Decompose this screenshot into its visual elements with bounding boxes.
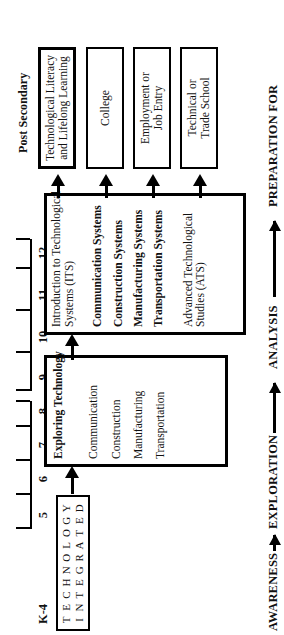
- phase-label-awareness: AWARENESS: [266, 553, 281, 631]
- bracket-tick-6: [16, 494, 30, 496]
- letter-row-technology: T E C H N O L O G Y: [60, 500, 73, 626]
- letter-cell: O: [60, 527, 73, 539]
- phase-label-preparation: PREPARATION FOR: [266, 85, 281, 207]
- course-transportation: Transportation: [154, 367, 167, 459]
- letter-cell: G: [60, 514, 73, 526]
- course-exploring-technology: Exploring Technology: [52, 367, 65, 459]
- letter-cell: O: [60, 552, 73, 564]
- ps-trade-school-line2: Trade School: [199, 77, 212, 138]
- bracket-tick-9: [16, 390, 30, 392]
- letter-cell: D: [73, 502, 86, 514]
- post-secondary-box-employment: Employment or Job Entry: [133, 47, 171, 169]
- letter-cell: Y: [60, 502, 73, 514]
- course-manufacturing-systems: Manufacturing Systems: [132, 205, 145, 327]
- phase-arrow-2: [273, 383, 276, 433]
- post-secondary-heading: Post Secondary: [16, 73, 31, 153]
- arrow-head-to-tech-literacy: [51, 174, 65, 186]
- middle-school-course-list: Exploring Technology Communication Const…: [52, 367, 168, 459]
- arrow-shaft-to-employment: [152, 184, 155, 198]
- high-school-course-list: Introduction to Technological Systems (I…: [50, 205, 207, 327]
- bracket-tick-10: [16, 352, 30, 354]
- bracket-tick-8-end: [16, 401, 30, 403]
- course-ats-line2: Studies (ATS): [194, 205, 207, 327]
- bracket-tick-8: [16, 426, 30, 428]
- arrow-shaft-to-trade-school: [199, 184, 202, 198]
- rotated-diagram-wrapper: AWARENESS EXPLORATION ANALYSIS PREPARATI…: [0, 0, 284, 635]
- arrow-shaft-to-college: [105, 184, 108, 198]
- letter-cell: N: [60, 564, 73, 576]
- phase-arrow-1: [273, 535, 276, 551]
- letter-row-integrated: I N T E G R A T E D: [73, 500, 86, 626]
- phase-label-exploration: EXPLORATION: [266, 435, 281, 529]
- bracket-rail-middle: [30, 401, 32, 529]
- letter-cell: T: [60, 614, 73, 626]
- bracket-tick-12: [16, 268, 30, 270]
- arrow-head-k4-to-middle: [65, 466, 79, 478]
- letter-cell: T: [73, 589, 86, 601]
- course-construction-systems: Construction Systems: [112, 205, 125, 327]
- bracket-tick-7: [16, 460, 30, 462]
- course-manufacturing: Manufacturing: [132, 367, 145, 459]
- letter-cell: I: [73, 614, 86, 626]
- bracket-tick-5: [16, 528, 30, 530]
- course-its-line1: Introduction to Technological: [50, 205, 63, 327]
- course-ats: Advanced Technological Studies (ATS): [182, 205, 207, 327]
- arrow-head-to-college: [99, 174, 113, 186]
- letter-cell: L: [60, 539, 73, 551]
- bracket-tick-12-end: [16, 239, 30, 241]
- arrow-head-to-employment: [146, 174, 160, 186]
- bracket-rail-high: [30, 239, 32, 391]
- phase-label-analysis: ANALYSIS: [266, 305, 281, 369]
- letter-cell: E: [73, 514, 86, 526]
- arrow-head-to-trade-school: [193, 174, 207, 186]
- course-its: Introduction to Technological Systems (I…: [50, 205, 75, 327]
- course-communication-systems: Communication Systems: [91, 205, 104, 327]
- ps-college-line1: College: [99, 90, 112, 126]
- arrow-shaft-to-tech-literacy: [57, 184, 60, 198]
- letter-cell: E: [73, 576, 86, 588]
- letter-cell: A: [73, 539, 86, 551]
- letter-cell: T: [73, 527, 86, 539]
- course-ats-line1: Advanced Technological: [182, 205, 195, 327]
- ps-trade-school-line1: Technical or: [186, 80, 199, 137]
- course-communication: Communication: [87, 367, 100, 459]
- ps-tech-literacy-line2: and Lifelong Learning: [57, 56, 70, 159]
- letter-cell: N: [73, 601, 86, 613]
- ps-tech-literacy-line1: Technological Literacy: [44, 55, 57, 161]
- grade-label-6: 6: [36, 471, 51, 487]
- arrow-shaft-k4-to-middle: [71, 476, 74, 494]
- phase-arrow-3: [273, 221, 276, 297]
- ps-employment-line1: Employment or: [139, 72, 152, 144]
- grade-label-k4: K-4: [36, 599, 51, 629]
- post-secondary-box-college: College: [86, 47, 124, 169]
- letter-cell: H: [60, 576, 73, 588]
- post-secondary-box-tech-literacy: Technological Literacy and Lifelong Lear…: [38, 47, 76, 169]
- course-its-line2: Systems (ITS): [63, 205, 76, 327]
- ps-employment-line2: Job Entry: [152, 86, 165, 130]
- elementary-integrated-technology-box: T E C H N O L O G Y I N T E G R A T E D: [56, 495, 90, 631]
- letter-cell: R: [73, 552, 86, 564]
- arrow-head-middle-to-high: [65, 334, 79, 346]
- bracket-tick-11: [16, 310, 30, 312]
- course-transportation-systems: Transportation Systems: [152, 205, 165, 327]
- course-construction: Construction: [110, 367, 123, 459]
- letter-cell: E: [60, 601, 73, 613]
- arrow-shaft-middle-to-high: [71, 344, 74, 360]
- phase-progression-band: AWARENESS EXPLORATION ANALYSIS PREPARATI…: [256, 0, 282, 635]
- grade-label-5: 5: [36, 507, 51, 523]
- post-secondary-box-trade-school: Technical or Trade School: [180, 47, 218, 169]
- diagram-canvas: AWARENESS EXPLORATION ANALYSIS PREPARATI…: [0, 0, 284, 635]
- letter-cell: G: [73, 564, 86, 576]
- letter-cell: C: [60, 589, 73, 601]
